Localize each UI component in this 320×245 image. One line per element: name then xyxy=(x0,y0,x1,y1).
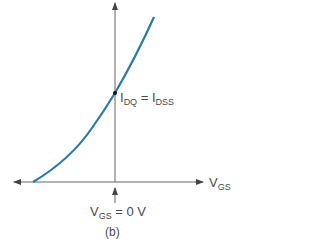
q-point-label: IDQ = IDSS xyxy=(120,91,174,107)
figure-caption: (b) xyxy=(105,226,120,238)
q-point-dot xyxy=(113,91,117,95)
x-axis-label: VGS xyxy=(209,176,231,192)
vgs-zero-label: VGS = 0 V xyxy=(90,205,146,221)
